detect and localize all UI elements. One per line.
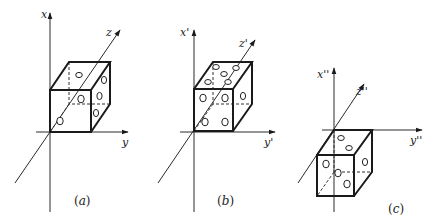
z-axis-label-b: z' — [238, 37, 248, 50]
y-axis-label-c: y'' — [409, 134, 422, 147]
die-c — [317, 130, 372, 196]
pip — [362, 158, 367, 165]
pip — [57, 117, 63, 125]
pip — [202, 118, 208, 126]
pip — [346, 146, 353, 151]
pip — [97, 92, 102, 99]
pip — [213, 65, 220, 70]
dice-rotation-diagram: x z y (a) x' z' y' — [0, 0, 437, 223]
pip — [78, 95, 84, 103]
pip — [200, 94, 206, 102]
panel-caption-c: (c) — [388, 202, 404, 216]
z-axis-label-a: z — [105, 26, 112, 39]
panel-caption-b: (b) — [217, 194, 234, 208]
y-axis-label-a: y — [121, 136, 129, 149]
pip — [240, 92, 245, 99]
x-axis-label-a: x — [41, 8, 48, 21]
x-axis-label-b: x' — [180, 26, 189, 39]
panel-c: x'' z'' y'' (c) — [298, 68, 422, 216]
panel-caption-a: (a) — [74, 194, 91, 208]
pip — [222, 94, 228, 102]
die-b — [194, 62, 252, 131]
pip — [335, 169, 341, 177]
pip — [323, 160, 329, 168]
pip — [344, 180, 350, 188]
pip — [338, 136, 345, 141]
y-axis-label-b: y' — [263, 136, 273, 149]
pip — [76, 72, 83, 77]
x-axis-label-c: x'' — [317, 68, 329, 81]
z-axis-label-c: z'' — [355, 85, 368, 98]
pip — [101, 76, 106, 83]
pip — [233, 66, 240, 71]
axes-b — [158, 30, 275, 212]
pip — [93, 109, 98, 116]
die-a — [50, 62, 110, 132]
axes-a — [15, 13, 128, 212]
pip — [222, 118, 228, 126]
pip — [225, 80, 232, 85]
pip — [205, 80, 212, 85]
pip — [221, 72, 228, 77]
panel-b: x' z' y' (b) — [158, 26, 275, 212]
panel-a: x z y (a) — [15, 8, 129, 212]
